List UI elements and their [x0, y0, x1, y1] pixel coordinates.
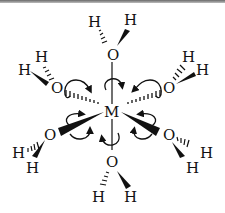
svg-text:O: O: [106, 153, 118, 171]
bond-wedge-lower-left: [58, 112, 104, 136]
svg-text:O: O: [163, 126, 175, 144]
svg-text:O: O: [44, 126, 56, 144]
svg-text:H: H: [124, 188, 137, 206]
svg-text:H: H: [35, 48, 48, 66]
bond-hashed-upper-right: [128, 90, 160, 104]
svg-text:H: H: [88, 13, 101, 31]
svg-text:H: H: [92, 188, 105, 206]
ligand-lower-right: O H H: [163, 126, 213, 177]
svg-text:H: H: [200, 144, 213, 162]
svg-text:H: H: [182, 48, 195, 66]
svg-text:H: H: [12, 144, 25, 162]
svg-text:H: H: [196, 61, 209, 79]
svg-text:O: O: [163, 79, 175, 97]
svg-text:O: O: [107, 46, 119, 64]
ligand-upper-left: O H H: [18, 48, 63, 97]
arrow-lower-left-b: [70, 130, 90, 139]
svg-text:O: O: [51, 79, 63, 97]
svg-text:H: H: [26, 159, 39, 177]
arrow-top: [105, 79, 122, 90]
octahedral-complex-diagram: M O H: [0, 0, 225, 213]
bond-hashed-upper-left: [66, 90, 98, 104]
ligand-upper-right: O H H: [163, 48, 209, 97]
svg-text:H: H: [186, 159, 199, 177]
ligand-bottom: O H H: [92, 153, 137, 206]
metal-center-label: M: [104, 103, 119, 121]
ligand-lower-left: O H H: [12, 126, 56, 177]
svg-text:H: H: [124, 11, 137, 29]
svg-text:H: H: [18, 61, 31, 79]
ligand-top: O H H: [88, 11, 137, 64]
arrow-bottom: [102, 133, 119, 145]
